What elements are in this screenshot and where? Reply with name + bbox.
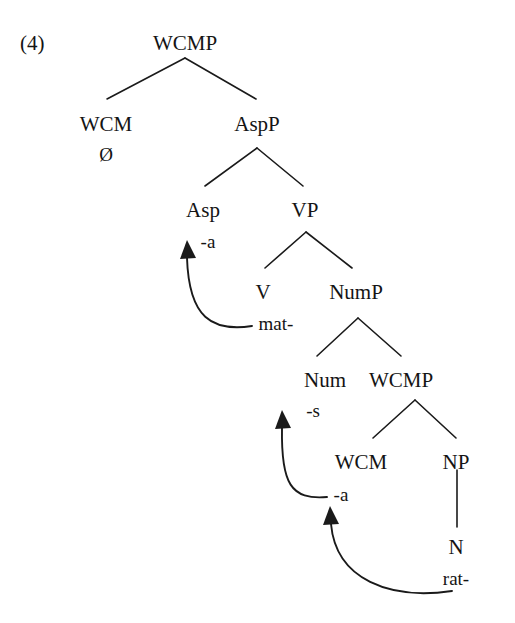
branch-nump-to-wcmp <box>358 318 401 356</box>
movement-arc-v-to-asp <box>187 258 252 327</box>
terminal-num: -s <box>306 400 320 421</box>
movement-arrow-v-to-asp <box>180 240 252 327</box>
terminal-n: rat- <box>443 568 469 589</box>
node-wcm-top: WCM <box>80 112 133 136</box>
syntax-tree-svg: (4) WCMP WCM Ø AspP Asp -a VP V mat- Num… <box>0 0 515 623</box>
node-root-wcmp: WCMP <box>153 31 217 55</box>
arrowhead-wcm-to-num <box>275 410 291 429</box>
movement-arc-wcm-to-num <box>282 428 327 497</box>
branch-root-to-wcm <box>107 58 185 99</box>
terminal-asp: -a <box>201 231 216 252</box>
terminal-wcm-inner: -a <box>334 484 349 505</box>
branch-wcmp-to-np <box>415 400 456 438</box>
node-aspp: AspP <box>234 112 280 136</box>
branch-vp-to-v <box>265 232 306 268</box>
example-number: (4) <box>20 31 45 55</box>
node-num: Num <box>304 368 346 392</box>
movement-arc-n-to-wcm <box>331 524 452 593</box>
branch-aspp-to-vp <box>257 148 303 186</box>
node-vp: VP <box>292 198 319 222</box>
figure-canvas: (4) WCMP WCM Ø AspP Asp -a VP V mat- Num… <box>0 0 515 623</box>
node-n: N <box>448 535 463 559</box>
node-asp: Asp <box>186 198 220 222</box>
movement-arrow-wcm-to-num <box>275 410 327 497</box>
terminal-wcm-top: Ø <box>99 144 113 165</box>
terminal-v: mat- <box>259 313 294 334</box>
branch-nump-to-num <box>317 318 358 356</box>
node-wcm-inner: WCM <box>335 450 388 474</box>
node-v: V <box>255 280 270 304</box>
node-np: NP <box>443 450 470 474</box>
arrowhead-n-to-wcm <box>323 506 339 525</box>
node-nump: NumP <box>329 280 383 304</box>
branch-wcmp-to-wcm <box>373 400 415 438</box>
arrowhead-v-to-asp <box>180 240 196 259</box>
branch-root-to-aspp <box>185 58 256 99</box>
branch-vp-to-nump <box>306 232 352 268</box>
node-inner-wcmp: WCMP <box>369 368 433 392</box>
movement-arrow-n-to-wcm <box>323 506 452 593</box>
branch-aspp-to-asp <box>205 148 257 186</box>
